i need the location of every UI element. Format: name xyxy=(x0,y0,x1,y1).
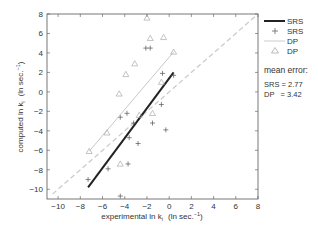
dp-triangle-marker xyxy=(171,49,177,54)
legend-swatch-dp-triangle xyxy=(272,48,279,54)
x-tick-label: 2 xyxy=(189,202,194,211)
y-tick-label: 4 xyxy=(39,49,44,58)
dp-triangle-marker xyxy=(132,61,138,66)
dp-fit-line xyxy=(89,52,173,151)
srs-plus-marker xyxy=(159,102,164,107)
srs-plus-marker xyxy=(163,127,168,132)
srs-plus-marker xyxy=(143,46,148,51)
dp-triangle-marker xyxy=(147,35,153,40)
y-axis: −10−8−6−4−202468 xyxy=(29,10,258,194)
x-tick-label: 6 xyxy=(234,202,239,211)
x-tick-label: 4 xyxy=(211,202,216,211)
srs-plus-marker xyxy=(86,177,91,182)
y-tick-label: −10 xyxy=(29,185,43,194)
y-axis-label: computed ln ki(ln sec.−1) xyxy=(15,61,26,152)
y-tick-label: 8 xyxy=(39,10,44,19)
srs-plus-marker xyxy=(160,71,165,76)
x-tick-label: −4 xyxy=(120,202,130,211)
legend: SRS SRS DP DP mean error: SRS = 2.77 DP … xyxy=(264,17,308,99)
plot-area xyxy=(47,14,258,199)
x-tick-label: −10 xyxy=(51,202,65,211)
dp-triangle-marker xyxy=(116,91,122,96)
y-tick-label: 2 xyxy=(39,68,44,77)
y-tick-label: −2 xyxy=(34,107,44,116)
dp-triangle-marker xyxy=(150,110,156,115)
srs-plus-marker xyxy=(124,111,129,116)
dp-triangle-marker xyxy=(161,34,167,39)
srs-plus-marker xyxy=(150,121,155,126)
legend-label-srs-plus: SRS xyxy=(287,27,303,36)
srs-plus-marker xyxy=(126,161,131,166)
x-axis-label: experimental ln ki(ln sec.−1) xyxy=(101,211,203,222)
y-tick-label: 0 xyxy=(39,88,44,97)
srs-plus-marker xyxy=(136,141,141,146)
srs-plus-marker xyxy=(148,46,153,51)
dp-triangle-marker xyxy=(123,71,129,76)
mean-error-srs: SRS = 2.77 xyxy=(264,80,303,89)
x-tick-label: −6 xyxy=(98,202,108,211)
srs-plus-marker xyxy=(106,166,111,171)
mean-error-dp: DP = 3.42 xyxy=(264,90,302,99)
x-tick-label: −2 xyxy=(142,202,152,211)
dp-triangle-marker xyxy=(158,79,164,84)
srs-plus-marker xyxy=(118,194,123,199)
legend-label-dp-triangle: DP xyxy=(287,47,298,56)
y-tick-label: −4 xyxy=(34,127,44,136)
legend-swatch-srs-plus xyxy=(272,28,278,34)
x-tick-label: 0 xyxy=(167,202,172,211)
dp-triangle-marker xyxy=(117,161,123,166)
legend-label-srs-line: SRS xyxy=(287,17,303,26)
x-tick-label: 8 xyxy=(256,202,261,211)
legend-label-dp-line: DP xyxy=(287,37,298,46)
x-axis: −10−8−6−4−202468 xyxy=(51,14,260,211)
srs-fit-line xyxy=(88,72,174,187)
x-tick-label: −8 xyxy=(76,202,86,211)
scatter-chart: −10−8−6−4−202468 −10−8−6−4−202468 experi… xyxy=(0,0,318,233)
y-tick-label: 6 xyxy=(39,29,44,38)
y-tick-label: −8 xyxy=(34,166,44,175)
mean-error-title: mean error: xyxy=(264,65,308,75)
identity-line xyxy=(53,14,258,194)
y-tick-label: −6 xyxy=(34,146,44,155)
